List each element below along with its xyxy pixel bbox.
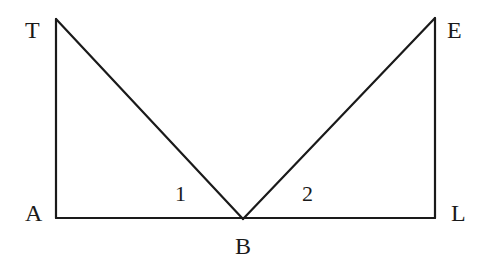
point-label-A: A [25,200,43,226]
angle-label-2: 2 [302,181,313,206]
angle-label-1: 1 [175,181,186,206]
point-label-L: L [451,200,466,226]
geometry-diagram: T E A L B 1 2 [0,0,480,272]
point-label-E: E [447,17,462,43]
point-label-B: B [235,233,251,259]
point-label-T: T [25,17,40,43]
segment-TB [56,19,243,219]
segment-BE [243,18,435,219]
